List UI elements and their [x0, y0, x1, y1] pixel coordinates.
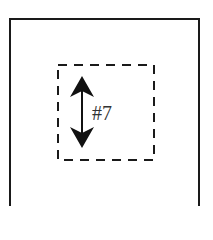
item-number-label: #7: [92, 102, 112, 125]
double-arrow-icon: [70, 76, 94, 148]
